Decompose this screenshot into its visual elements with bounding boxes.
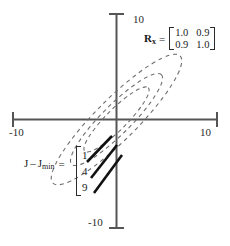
jmin-subscript: min xyxy=(42,162,54,171)
j-symbol: J xyxy=(24,157,28,169)
contour-value-1: 1 xyxy=(82,147,88,163)
matrix-brackets: 1.0 0.9 0.9 1.0 xyxy=(169,27,215,50)
matrix-symbol-letter: R xyxy=(144,32,152,44)
matrix-cell-r0c0: 1.0 xyxy=(175,27,188,38)
contour-value-9: 9 xyxy=(82,179,88,195)
covariance-matrix-annotation: Rx = 1.0 0.9 0.9 1.0 xyxy=(144,27,215,50)
minus-sign: – xyxy=(30,157,36,169)
matrix-equals-sign: = xyxy=(159,33,165,45)
x-axis-right-label: 10 xyxy=(200,127,211,138)
matrix-cell-r0c1: 0.9 xyxy=(196,27,209,38)
y-axis-bottom-label: -10 xyxy=(88,217,103,228)
matrix-symbol-subscript: x xyxy=(152,37,156,46)
contour-values-bracket: 1 4 9 xyxy=(76,146,93,196)
contour-level-expression: J–Jmin xyxy=(24,157,55,171)
matrix-grid: 1.0 0.9 0.9 1.0 xyxy=(175,27,209,50)
leader-line-9 xyxy=(94,155,122,193)
x-axis-left-label: -10 xyxy=(9,127,24,138)
matrix-cell-r1c0: 0.9 xyxy=(175,39,188,50)
contour-value-4: 4 xyxy=(82,163,88,179)
matrix-cell-r1c1: 1.0 xyxy=(196,39,209,50)
contour-level-annotation: J–Jmin = xyxy=(24,157,69,171)
y-axis-top-label: 10 xyxy=(133,14,144,25)
contour-equals-sign: = xyxy=(59,158,65,170)
contour-level-values: 1 4 9 xyxy=(76,146,93,196)
matrix-symbol: Rx xyxy=(144,32,156,46)
